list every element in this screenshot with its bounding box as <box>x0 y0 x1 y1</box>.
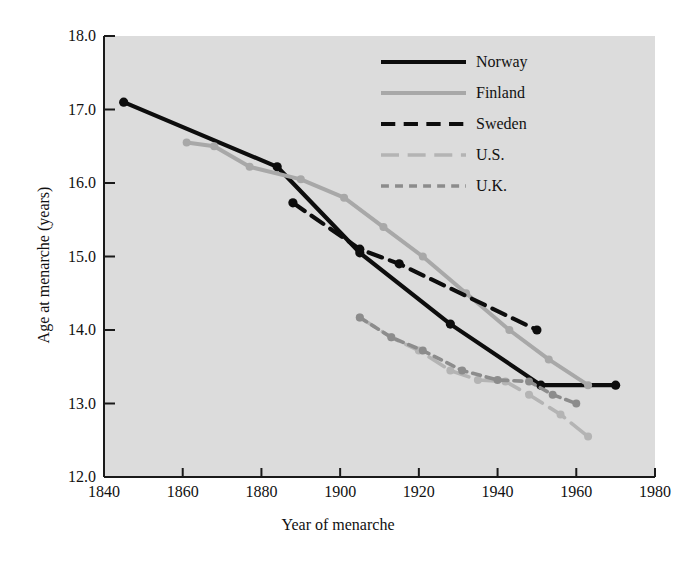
data-point <box>419 253 427 261</box>
y-tick-label: 14.0 <box>36 321 96 339</box>
data-point <box>525 377 533 385</box>
data-point <box>584 433 592 441</box>
data-point <box>297 175 305 183</box>
data-point <box>183 139 191 147</box>
legend-label-us: U.S. <box>476 146 504 164</box>
x-tick-label: 1900 <box>324 483 356 501</box>
data-point <box>355 245 364 254</box>
x-tick-label: 1880 <box>245 483 277 501</box>
data-point <box>340 194 348 202</box>
data-point <box>119 98 128 107</box>
data-point <box>356 314 364 322</box>
chart-figure: Year of menarche Age at menarche (years)… <box>0 0 676 574</box>
data-point <box>611 381 620 390</box>
data-point <box>246 163 254 171</box>
data-point <box>532 325 541 334</box>
y-tick-label: 12.0 <box>36 468 96 486</box>
data-point <box>474 376 482 384</box>
data-point <box>395 259 404 268</box>
data-point <box>387 333 395 341</box>
data-point <box>572 400 580 408</box>
x-tick-label: 1960 <box>560 483 592 501</box>
legend-label-sweden: Sweden <box>476 115 527 133</box>
data-point <box>210 142 218 150</box>
x-tick-label: 1980 <box>639 483 671 501</box>
x-tick-label: 1860 <box>167 483 199 501</box>
y-tick-label: 18.0 <box>36 27 96 45</box>
data-point <box>549 391 557 399</box>
data-point <box>446 320 455 329</box>
y-tick-label: 16.0 <box>36 174 96 192</box>
x-tick-label: 1920 <box>403 483 435 501</box>
data-point <box>273 162 282 171</box>
data-point <box>494 376 502 384</box>
data-point <box>379 223 387 231</box>
y-tick-label: 13.0 <box>36 395 96 413</box>
data-point <box>584 381 592 389</box>
y-tick-label: 15.0 <box>36 248 96 266</box>
legend-label-uk: U.K. <box>476 177 507 195</box>
legend-label-finland: Finland <box>476 84 525 102</box>
data-point <box>458 366 466 374</box>
legend-label-norway: Norway <box>476 53 528 71</box>
y-tick-label: 17.0 <box>36 101 96 119</box>
x-axis-title: Year of menarche <box>0 516 676 534</box>
data-point <box>288 198 297 207</box>
data-point <box>505 326 513 334</box>
data-point <box>557 411 565 419</box>
x-tick-label: 1940 <box>482 483 514 501</box>
data-point <box>545 355 553 363</box>
data-point <box>525 391 533 399</box>
data-point <box>419 347 427 355</box>
